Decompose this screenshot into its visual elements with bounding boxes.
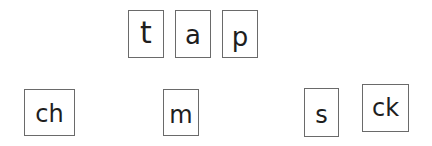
letter-card-m[interactable]: m <box>163 89 199 136</box>
letter-card-ck[interactable]: ck <box>362 84 409 132</box>
letter-card-a[interactable]: a <box>175 10 211 58</box>
letter-card-label: p <box>232 24 249 50</box>
letter-card-label: ch <box>35 102 63 126</box>
letter-card-label: t <box>140 18 152 48</box>
letter-card-label: m <box>169 103 192 127</box>
letter-card-label: s <box>315 103 328 127</box>
letter-card-ch[interactable]: ch <box>24 89 75 136</box>
letter-card-t[interactable]: t <box>128 10 164 58</box>
letter-card-label: a <box>185 22 201 48</box>
letter-card-p[interactable]: p <box>222 10 258 58</box>
letter-card-s[interactable]: s <box>304 88 339 137</box>
letter-card-label: ck <box>372 96 399 120</box>
